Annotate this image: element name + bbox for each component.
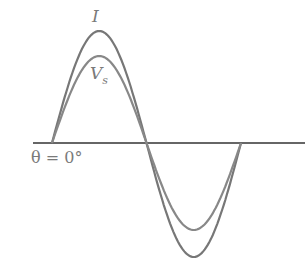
current-label: I [91,6,99,26]
voltage-label: Vs [90,63,108,87]
voltage-label-subscript: s [102,74,108,87]
waveform-diagram: I Vs θ = 0° [0,0,305,270]
theta-label: θ = 0° [31,148,82,167]
